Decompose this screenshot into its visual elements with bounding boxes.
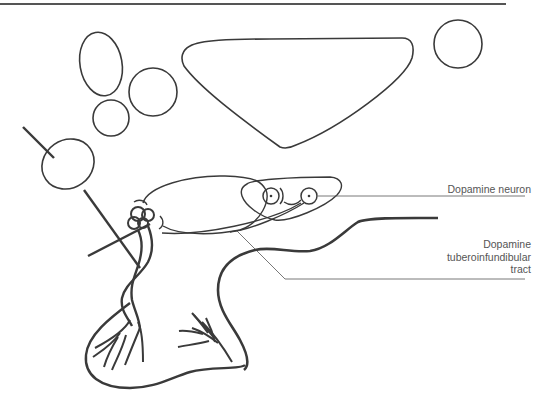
neuron-nucleus-2 xyxy=(308,195,311,198)
label-dopamine-tract: Dopamine tuberoinfundibular tract xyxy=(411,238,531,276)
loop-2 xyxy=(142,209,154,221)
neuron-nucleus-1 xyxy=(270,195,273,198)
circle-structure-right xyxy=(434,20,482,68)
oval-structure-left xyxy=(75,29,127,99)
stalk-fiber-b xyxy=(131,230,141,330)
label-tract-line-2: tuberoinfundibular xyxy=(411,251,531,264)
label-dopamine-neuron-text: Dopamine neuron xyxy=(448,183,531,195)
label-tract-line-1: Dopamine xyxy=(411,238,531,251)
circle-structure-middle xyxy=(129,68,177,116)
chiasm-oval xyxy=(32,129,104,199)
dopamine-tract-fiber xyxy=(218,218,438,370)
nerve-line-upper xyxy=(23,127,54,158)
tuberoinfundibular-diagram xyxy=(0,0,544,405)
synapse-arc-lower xyxy=(159,216,163,229)
stalk-fiber-a xyxy=(122,226,153,326)
neuron-cluster-outline xyxy=(241,177,341,220)
label-tract-line-3: tract xyxy=(411,263,531,276)
terminal-branches-right xyxy=(178,313,232,362)
axon-to-stalk xyxy=(162,203,301,233)
circle-structure-small xyxy=(93,100,129,136)
triangular-structure xyxy=(182,38,413,148)
synapse-arc-upper xyxy=(134,200,147,205)
neuron-arc-1 xyxy=(280,188,283,204)
label-dopamine-neuron: Dopamine neuron xyxy=(448,183,531,196)
